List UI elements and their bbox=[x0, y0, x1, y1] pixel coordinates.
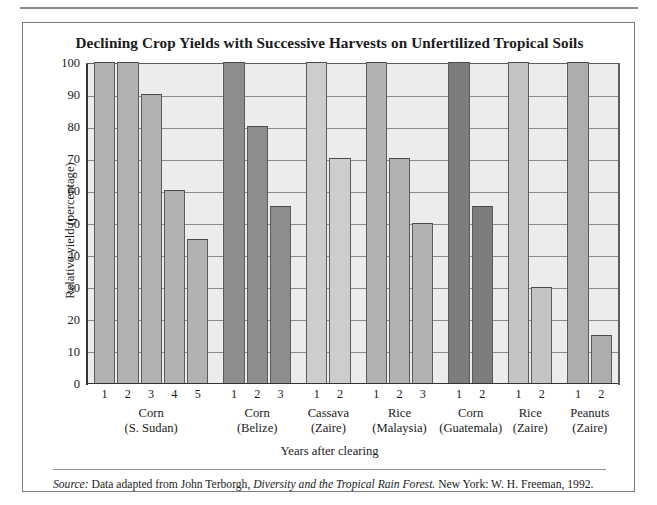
x-tick-label: 3 bbox=[141, 388, 162, 401]
source-caption: Source: Data adapted from John Terborgh,… bbox=[53, 478, 613, 492]
bar bbox=[508, 62, 529, 383]
bar bbox=[389, 158, 410, 383]
group-location-label: (Zaire) bbox=[545, 421, 634, 436]
bar bbox=[366, 62, 387, 383]
x-tick-label: 3 bbox=[270, 388, 291, 401]
bar bbox=[448, 62, 469, 383]
source-title-italic: Diversity and the Tropical Rain Forest. bbox=[253, 478, 435, 491]
source-text-part2: New York: W. H. Freeman, 1992. bbox=[435, 478, 593, 491]
bar bbox=[306, 62, 327, 383]
bar bbox=[531, 287, 552, 383]
x-tick-label: 1 bbox=[366, 388, 387, 401]
bar bbox=[567, 62, 588, 383]
x-tick-label: 1 bbox=[567, 388, 588, 401]
gridline bbox=[86, 160, 620, 161]
x-tick-label: 2 bbox=[591, 388, 612, 401]
bar bbox=[270, 206, 291, 383]
y-axis-label-holder: Relative yield (percentage) bbox=[49, 63, 69, 384]
x-tick-label: 5 bbox=[187, 388, 208, 401]
chart-title: Declining Crop Yields with Successive Ha… bbox=[23, 34, 636, 52]
x-tick-label: 4 bbox=[164, 388, 185, 401]
x-tick-label: 1 bbox=[223, 388, 244, 401]
bar bbox=[412, 223, 433, 384]
bar bbox=[117, 62, 138, 383]
bar bbox=[472, 206, 493, 383]
bar bbox=[164, 190, 185, 383]
plot-area bbox=[86, 63, 620, 384]
group-caption: Peanuts(Zaire) bbox=[545, 406, 634, 435]
x-axis-label: Years after clearing bbox=[23, 444, 636, 459]
x-tick-label: 1 bbox=[508, 388, 529, 401]
plot-right-border bbox=[618, 64, 620, 385]
x-tick-label: 1 bbox=[94, 388, 115, 401]
x-tick-label: 1 bbox=[448, 388, 469, 401]
top-rule bbox=[20, 7, 638, 9]
bar bbox=[94, 62, 115, 383]
x-tick-label: 3 bbox=[412, 388, 433, 401]
bar bbox=[187, 239, 208, 383]
gridline bbox=[86, 128, 620, 129]
source-text-part1: Data adapted from John Terborgh, bbox=[89, 478, 254, 491]
bar bbox=[223, 62, 244, 383]
x-tick-label: 2 bbox=[472, 388, 493, 401]
group-crop-label: Peanuts bbox=[545, 406, 634, 421]
x-tick-label: 2 bbox=[531, 388, 552, 401]
x-tick-label: 2 bbox=[117, 388, 138, 401]
x-tick-label: 2 bbox=[247, 388, 268, 401]
source-prefix: Source: bbox=[53, 478, 89, 491]
x-tick-label: 1 bbox=[306, 388, 327, 401]
bar bbox=[141, 94, 162, 383]
plot-wrap bbox=[86, 63, 620, 384]
figure-frame: Declining Crop Yields with Successive Ha… bbox=[22, 22, 635, 492]
gridline bbox=[86, 96, 620, 97]
y-axis-label: Relative yield (percentage) bbox=[63, 106, 78, 356]
x-tick-label: 2 bbox=[329, 388, 350, 401]
y-axis-line bbox=[86, 64, 88, 385]
figure-root: Declining Crop Yields with Successive Ha… bbox=[0, 0, 657, 505]
bar bbox=[329, 158, 350, 383]
caption-rule bbox=[53, 469, 606, 470]
bar bbox=[247, 126, 268, 383]
x-tick-label: 2 bbox=[389, 388, 410, 401]
bar bbox=[591, 335, 612, 383]
